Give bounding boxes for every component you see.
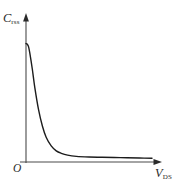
x-axis-label-symbol: V <box>155 166 163 180</box>
y-axis <box>23 13 29 163</box>
x-axis-arrowhead <box>154 159 163 165</box>
x-axis <box>20 159 162 165</box>
chart-figure: Crss VDS O <box>0 0 183 188</box>
x-axis-label-subscript: DS <box>163 173 172 181</box>
plot-area <box>0 0 183 188</box>
y-axis-label-subscript: rss <box>11 18 19 26</box>
x-axis-label: VDS <box>155 167 172 180</box>
origin-label: O <box>13 163 21 175</box>
y-axis-label: Crss <box>3 12 20 25</box>
data-series-curve <box>26 44 152 159</box>
y-axis-arrowhead <box>23 13 29 22</box>
